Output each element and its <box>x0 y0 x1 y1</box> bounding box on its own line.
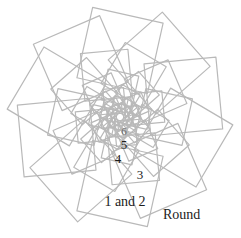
ring-label-4: 4 <box>115 152 122 165</box>
ring-label-3: 3 <box>137 168 144 181</box>
ring-label-1-and-2: 1 and 2 <box>104 195 145 209</box>
rosette-figure: 6 5 4 3 1 and 2 Round <box>0 0 241 238</box>
round-caption: Round <box>163 208 200 222</box>
ring-label-5: 5 <box>121 138 128 151</box>
ring-label-6: 6 <box>121 126 127 137</box>
